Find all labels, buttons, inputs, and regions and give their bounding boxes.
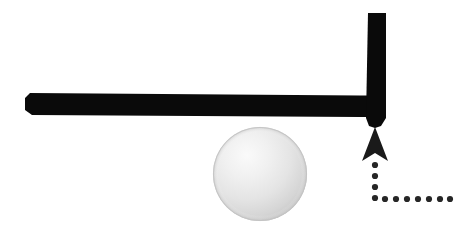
- vertical-beam-shape: [366, 13, 386, 128]
- vertical-beam: [366, 13, 386, 128]
- path-dot: [372, 173, 378, 179]
- horizontal-beam: [25, 93, 377, 117]
- horizontal-beam-shape: [25, 93, 377, 117]
- path-dot: [437, 196, 443, 202]
- path-dot: [372, 184, 378, 190]
- path-dot: [426, 196, 432, 202]
- path-dot: [382, 196, 388, 202]
- path-dot: [372, 162, 378, 168]
- diagram-canvas: L-shaped beam resting above a sphere wit…: [0, 0, 458, 240]
- sphere: [213, 127, 307, 221]
- path-dot: [415, 196, 421, 202]
- diagram-svg: [0, 0, 458, 240]
- path-dot: [393, 196, 399, 202]
- path-dot: [404, 196, 410, 202]
- path-dot: [372, 195, 378, 201]
- path-dot: [447, 196, 453, 202]
